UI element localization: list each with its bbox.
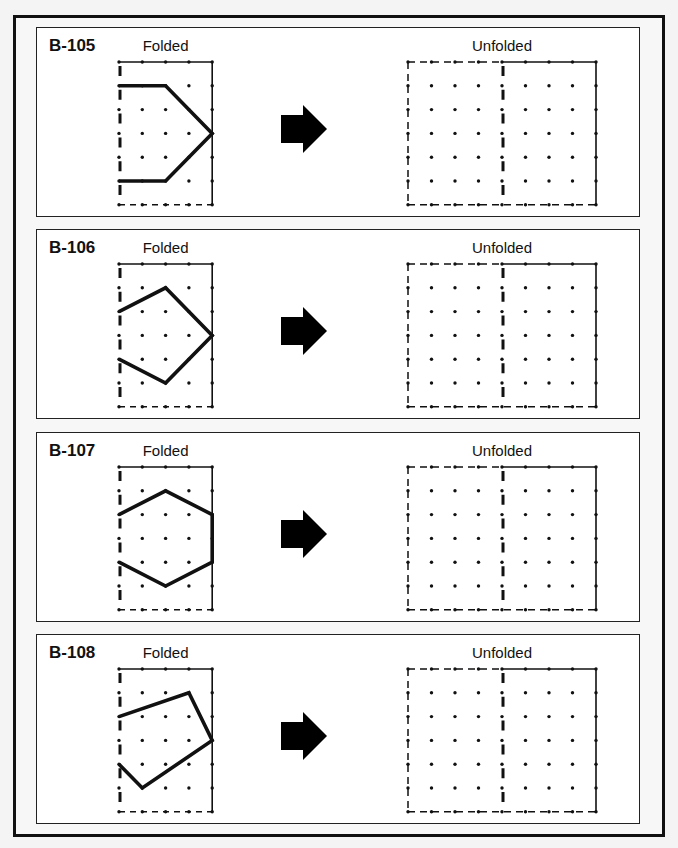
unfolded-grid: [406, 667, 597, 813]
folded-grid: [117, 262, 214, 408]
unfolded-grid: [406, 60, 597, 206]
unfolded-grid: [406, 262, 597, 408]
problem-panel-b-108: B-108FoldedUnfolded: [36, 634, 640, 824]
problem-panel-b-105: B-105FoldedUnfolded: [36, 27, 640, 217]
problem-panel-b-107: B-107FoldedUnfolded: [36, 432, 640, 622]
folded-grid: [117, 667, 214, 813]
right-arrow-icon: [281, 307, 327, 355]
folded-grid: [117, 465, 214, 611]
folded-grid: [117, 60, 214, 206]
unfolded-grid: [406, 465, 597, 611]
right-arrow-icon: [281, 510, 327, 558]
right-arrow-icon: [281, 712, 327, 760]
problem-panel-b-106: B-106FoldedUnfolded: [36, 229, 640, 419]
right-arrow-icon: [281, 105, 327, 153]
